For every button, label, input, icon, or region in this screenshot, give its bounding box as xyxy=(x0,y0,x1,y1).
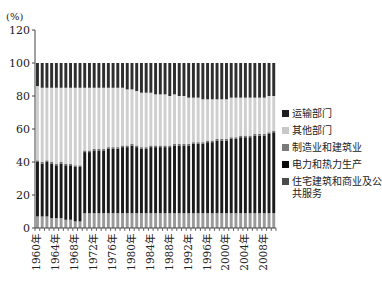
bar-segment xyxy=(93,150,96,213)
bar-segment xyxy=(83,213,86,228)
bar-1999 xyxy=(220,63,223,228)
bar-segment xyxy=(206,213,209,228)
bar-segment xyxy=(97,213,100,228)
bar-segment xyxy=(126,213,129,228)
bar-segment xyxy=(173,144,176,146)
bar-segment xyxy=(234,137,237,139)
bar-segment xyxy=(164,63,167,94)
bar-segment xyxy=(220,213,223,228)
x-tick-label: 2000年 xyxy=(219,234,231,271)
bar-2002 xyxy=(234,63,237,228)
bar-segment xyxy=(41,63,44,88)
bar-segment xyxy=(154,63,157,94)
bar-segment xyxy=(121,147,124,213)
bar-segment xyxy=(116,63,119,88)
bar-segment xyxy=(79,165,82,167)
bar-segment xyxy=(60,218,63,228)
bar-1990 xyxy=(178,63,181,228)
bar-segment xyxy=(102,149,105,151)
bar-1984 xyxy=(149,63,152,228)
bar-segment xyxy=(220,63,223,99)
bar-segment xyxy=(79,63,82,88)
bar-segment xyxy=(225,63,228,99)
x-tick-label: 1988年 xyxy=(163,234,175,271)
bar-segment xyxy=(244,213,247,228)
bar-segment xyxy=(126,63,129,89)
bar-segment xyxy=(135,146,138,148)
y-tick-label: 60 xyxy=(16,123,30,136)
bar-segment xyxy=(206,99,209,140)
bar-1981 xyxy=(135,63,138,228)
legend-label: 运输部门 xyxy=(292,108,382,120)
bar-segment xyxy=(206,141,209,143)
bar-segment xyxy=(253,213,256,228)
legend-swatch-icon xyxy=(282,127,289,134)
bar-segment xyxy=(192,63,195,98)
bar-segment xyxy=(263,98,266,134)
bar-segment xyxy=(230,63,233,98)
bar-segment xyxy=(107,149,110,213)
bar-segment xyxy=(121,146,124,148)
bar-1995 xyxy=(201,63,204,228)
bar-segment xyxy=(272,96,275,131)
bar-segment xyxy=(182,146,185,214)
bar-segment xyxy=(112,147,115,149)
bar-segment xyxy=(173,146,176,214)
bar-segment xyxy=(216,141,219,214)
bar-segment xyxy=(263,134,266,136)
bar-segment xyxy=(249,63,252,98)
bar-segment xyxy=(97,150,100,213)
x-tick-label: 1964年 xyxy=(49,234,61,271)
bar-segment xyxy=(201,63,204,99)
bar-segment xyxy=(197,142,200,144)
bar-segment xyxy=(83,152,86,213)
bar-segment xyxy=(41,162,44,164)
bar-segment xyxy=(36,160,39,162)
bar-segment xyxy=(36,86,39,160)
bar-segment xyxy=(112,63,115,88)
bar-segment xyxy=(112,149,115,213)
bar-segment xyxy=(239,137,242,213)
bar-2001 xyxy=(230,63,233,228)
legend-item: 电力和热力生产 xyxy=(282,159,382,171)
bar-1965 xyxy=(60,63,63,228)
bar-segment xyxy=(135,213,138,228)
bar-segment xyxy=(206,142,209,213)
bar-1964 xyxy=(55,63,58,228)
bar-segment xyxy=(131,213,134,228)
bar-segment xyxy=(154,146,157,148)
bar-segment xyxy=(211,213,214,228)
bar-segment xyxy=(230,139,233,213)
bar-segment xyxy=(102,88,105,149)
bar-1983 xyxy=(145,63,148,228)
bar-segment xyxy=(145,149,148,213)
bar-segment xyxy=(93,63,96,88)
legend: 运输部门其他部门制造业和建筑业电力和热力生产住宅建筑和商业及公共服务 xyxy=(282,108,382,205)
bar-segment xyxy=(74,63,77,88)
bar-segment xyxy=(258,213,261,228)
x-tick-label: 1972年 xyxy=(87,234,99,271)
bar-segment xyxy=(135,91,138,145)
bar-segment xyxy=(79,88,82,166)
bar-1992 xyxy=(187,63,190,228)
bar-segment xyxy=(230,137,233,139)
bar-1963 xyxy=(50,63,53,228)
bar-1982 xyxy=(140,63,143,228)
bar-segment xyxy=(192,98,195,143)
bar-segment xyxy=(145,147,148,149)
bar-1980 xyxy=(131,63,134,228)
legend-swatch-icon xyxy=(282,110,289,117)
bar-segment xyxy=(36,63,39,86)
bar-segment xyxy=(50,63,53,88)
bar-1979 xyxy=(126,63,129,228)
bar-segment xyxy=(225,99,228,139)
bar-segment xyxy=(116,147,119,149)
bar-segment xyxy=(197,144,200,213)
bar-segment xyxy=(145,63,148,93)
bar-2005 xyxy=(249,63,252,228)
bar-1968 xyxy=(74,63,77,228)
bar-2006 xyxy=(253,63,256,228)
bar-segment xyxy=(140,149,143,213)
y-axis-unit: (%) xyxy=(6,11,23,22)
bar-segment xyxy=(239,98,242,136)
